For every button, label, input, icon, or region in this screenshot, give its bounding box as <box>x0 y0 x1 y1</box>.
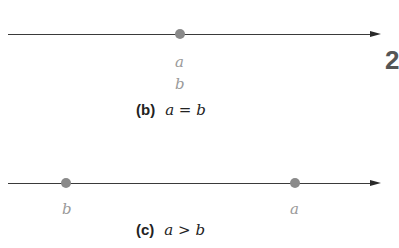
number-line-b <box>8 34 374 35</box>
label-b: b <box>62 202 72 217</box>
point-a <box>290 178 300 188</box>
label-a: a <box>175 55 184 70</box>
caption-c: (c)a > b <box>136 221 205 239</box>
caption-tag: (b) <box>136 101 155 118</box>
caption-expression: a = b <box>165 101 206 119</box>
caption-tag: (c) <box>136 221 154 238</box>
point-a-equals-b <box>175 29 185 39</box>
label-b: b <box>175 77 185 92</box>
arrow-right-icon <box>370 31 381 37</box>
point-b <box>61 178 71 188</box>
partial-edge-text: 2 <box>385 47 399 73</box>
caption-b: (b)a = b <box>136 101 206 119</box>
caption-expression: a > b <box>164 221 205 239</box>
arrow-right-icon <box>370 180 381 186</box>
label-a: a <box>290 202 299 217</box>
